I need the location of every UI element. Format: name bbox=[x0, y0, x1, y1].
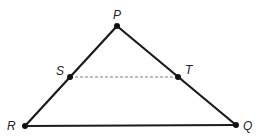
triangle-diagram: P S T R Q bbox=[0, 0, 263, 140]
point-p bbox=[114, 23, 120, 29]
label-t: T bbox=[185, 63, 194, 77]
label-s: S bbox=[56, 64, 64, 78]
label-p: P bbox=[113, 8, 121, 22]
point-q bbox=[233, 122, 239, 128]
point-t bbox=[175, 74, 181, 80]
point-r bbox=[22, 123, 28, 129]
label-r: R bbox=[7, 119, 16, 133]
point-s bbox=[67, 74, 73, 80]
side-rq bbox=[25, 125, 236, 126]
label-q: Q bbox=[243, 119, 252, 133]
